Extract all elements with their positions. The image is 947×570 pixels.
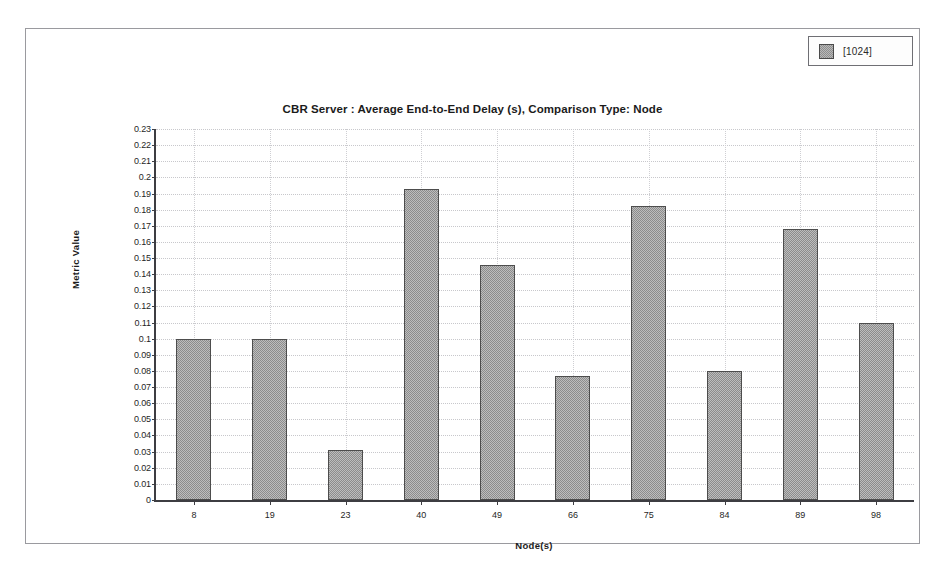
y-tick-label: 0 <box>146 495 156 505</box>
y-tick-label: 0.03 <box>134 447 156 457</box>
y-tick-label: 0.07 <box>134 382 156 392</box>
x-tick-mark <box>800 500 801 505</box>
bar[interactable] <box>328 450 363 500</box>
bar-slot <box>555 129 590 500</box>
y-tick-label: 0.11 <box>135 318 156 328</box>
y-tick-label: 0.12 <box>134 301 156 311</box>
bar[interactable] <box>555 376 590 500</box>
x-tick-mark <box>725 500 726 505</box>
plot-area: 0.230.220.210.20.190.180.170.160.150.140… <box>154 129 914 502</box>
y-tick-label: 0.1 <box>139 334 156 344</box>
bar[interactable] <box>631 206 666 500</box>
bar-slot <box>631 129 666 500</box>
y-tick-label: 0.22 <box>134 140 156 150</box>
y-tick-label: 0.06 <box>134 398 156 408</box>
bar-slot <box>176 129 211 500</box>
x-tick-mark <box>573 500 574 505</box>
y-tick-label: 0.08 <box>134 366 156 376</box>
x-tick-label: 40 <box>416 510 426 520</box>
bar[interactable] <box>404 189 439 500</box>
x-tick-mark <box>649 500 650 505</box>
bar-slot <box>859 129 894 500</box>
x-tick-mark <box>421 500 422 505</box>
x-tick-mark <box>876 500 877 505</box>
y-tick-label: 0.17 <box>134 221 156 231</box>
x-axis-title: Node(s) <box>154 540 914 551</box>
x-tick-label: 89 <box>795 510 805 520</box>
bar[interactable] <box>252 339 287 500</box>
bar-slot <box>783 129 818 500</box>
y-tick-label: 0.2 <box>139 172 156 182</box>
y-axis-title: Metric Value <box>70 230 81 289</box>
x-tick-label: 8 <box>191 510 196 520</box>
chart-panel: CBR Server : Average End-to-End Delay (s… <box>25 28 920 544</box>
bar[interactable] <box>707 371 742 500</box>
x-tick-label: 84 <box>719 510 729 520</box>
y-tick-label: 0.15 <box>134 253 156 263</box>
x-tick-label: 19 <box>265 510 275 520</box>
y-tick-label: 0.21 <box>134 156 156 166</box>
bar-slot <box>707 129 742 500</box>
bar[interactable] <box>176 339 211 500</box>
legend[interactable]: [1024] <box>808 36 913 66</box>
y-tick-label: 0.09 <box>134 350 156 360</box>
legend-label: [1024] <box>843 46 872 57</box>
bar-slot <box>328 129 363 500</box>
bar[interactable] <box>783 229 818 500</box>
bar[interactable] <box>480 265 515 501</box>
y-tick-label: 0.16 <box>134 237 156 247</box>
bar-slot <box>252 129 287 500</box>
y-tick-label: 0.13 <box>134 285 156 295</box>
x-tick-mark <box>270 500 271 505</box>
legend-swatch-icon <box>819 44 834 59</box>
chart-screen: CBR Server : Average End-to-End Delay (s… <box>0 0 947 570</box>
y-tick-label: 0.18 <box>134 205 156 215</box>
bar-series: 8192340496675848998 <box>156 129 914 500</box>
x-tick-mark <box>497 500 498 505</box>
bar-slot <box>404 129 439 500</box>
x-tick-mark <box>346 500 347 505</box>
x-tick-mark <box>194 500 195 505</box>
x-tick-label: 49 <box>492 510 502 520</box>
y-tick-label: 0.23 <box>134 124 156 134</box>
x-tick-label: 98 <box>871 510 881 520</box>
y-tick-label: 0.01 <box>134 479 156 489</box>
y-tick-label: 0.19 <box>134 189 156 199</box>
x-tick-label: 66 <box>568 510 578 520</box>
bar-slot <box>480 129 515 500</box>
x-tick-label: 23 <box>340 510 350 520</box>
x-tick-label: 75 <box>644 510 654 520</box>
y-tick-label: 0.02 <box>134 463 156 473</box>
chart-title: CBR Server : Average End-to-End Delay (s… <box>26 103 919 115</box>
y-tick-label: 0.05 <box>134 414 156 424</box>
bar[interactable] <box>859 323 894 500</box>
y-tick-label: 0.04 <box>134 430 156 440</box>
y-tick-label: 0.14 <box>134 269 156 279</box>
